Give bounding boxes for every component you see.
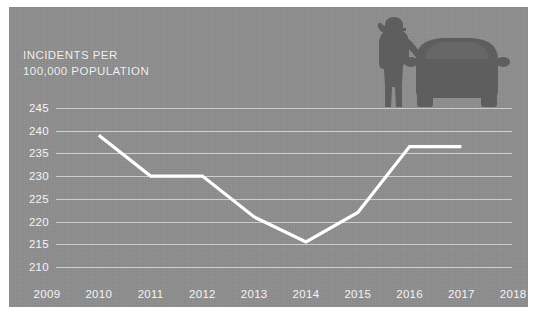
gridline-225	[56, 199, 512, 200]
chart-panel: INCIDENTS PER100,000 POPULATION 24524023…	[9, 7, 528, 307]
y-axis-tick-225: 225	[15, 193, 49, 205]
footnote-text	[10, 309, 310, 318]
y-axis-tick-220: 220	[15, 216, 49, 228]
y-axis-tick-215: 215	[15, 238, 49, 250]
gridline-240	[56, 131, 512, 132]
x-axis-tick-2012: 2012	[179, 288, 225, 300]
x-axis-tick-2014: 2014	[283, 288, 329, 300]
gridline-220	[56, 222, 512, 223]
x-axis-tick-2013: 2013	[231, 288, 277, 300]
x-axis-tick-2016: 2016	[387, 288, 433, 300]
x-axis-tick-2015: 2015	[335, 288, 381, 300]
x-axis-tick-2009: 2009	[24, 288, 70, 300]
x-axis-tick-2011: 2011	[128, 288, 174, 300]
gridline-235	[56, 153, 512, 154]
x-axis-tick-2010: 2010	[76, 288, 122, 300]
x-axis-tick-2017: 2017	[438, 288, 484, 300]
illustration-person-and-car	[361, 15, 521, 117]
y-axis-tick-240: 240	[15, 125, 49, 137]
y-axis-tick-245: 245	[15, 102, 49, 114]
y-axis-tick-210: 210	[15, 261, 49, 273]
y-axis-tick-235: 235	[15, 147, 49, 159]
chart-stage: INCIDENTS PER100,000 POPULATION 24524023…	[0, 0, 546, 321]
y-axis-tick-230: 230	[15, 170, 49, 182]
gridline-210	[56, 267, 512, 268]
x-axis-tick-2018: 2018	[490, 288, 528, 300]
gridline-230	[56, 176, 512, 177]
gridline-215	[56, 244, 512, 245]
car-silhouette	[404, 38, 510, 107]
